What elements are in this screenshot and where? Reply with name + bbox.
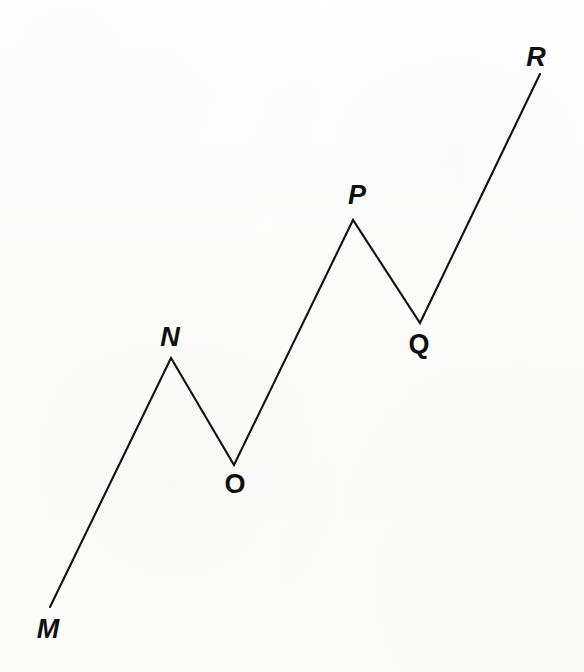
zigzag-polyline-svg [0, 0, 584, 672]
vertex-label-p: P [348, 182, 366, 209]
vertex-label-q: Q [408, 331, 429, 358]
vertex-label-n: N [160, 324, 180, 351]
vertex-label-r: R [526, 44, 546, 71]
figure-canvas: M N O P Q R [0, 0, 584, 672]
vertex-label-m: M [37, 616, 60, 643]
zigzag-path [50, 74, 540, 607]
vertex-label-o: O [224, 471, 245, 498]
